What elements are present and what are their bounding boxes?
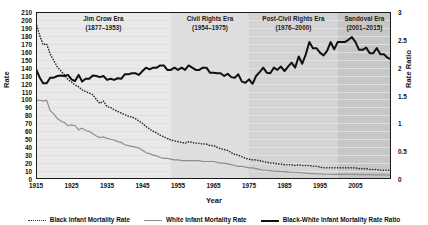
x-axis: 1915192519351945195519651975198519952005 xyxy=(36,180,391,192)
y-tick-left-16: 160 xyxy=(21,48,32,55)
y-tick-left-15: 150 xyxy=(21,56,32,63)
y-tick-left-17: 170 xyxy=(21,40,32,47)
y-tick-left-11: 110 xyxy=(22,88,32,95)
y-tick-right-0: 0 xyxy=(398,176,402,183)
y-tick-right-5: 2.5 xyxy=(398,36,407,43)
y-tick-left-1: 10 xyxy=(25,168,32,175)
y-tick-left-20: 200 xyxy=(21,16,32,23)
legend-label-1: White Infant Mortality Rate xyxy=(166,216,247,223)
x-tick-1: 1925 xyxy=(64,182,78,189)
thick-line-icon xyxy=(261,217,279,223)
y-tick-left-8: 80 xyxy=(25,112,32,119)
y-tick-left-14: 140 xyxy=(21,64,32,71)
y-tick-right-2: 1 xyxy=(398,120,402,127)
x-tick-2: 1935 xyxy=(100,182,114,189)
thin-line-icon xyxy=(144,217,162,223)
y-tick-right-4: 2 xyxy=(398,64,402,71)
legend-label-0: Black Infant Mortality Rate xyxy=(50,216,130,223)
chart-legend: Black Infant Mortality RateWhite Infant … xyxy=(0,216,428,223)
y-axis-right: 00.511.522.53 xyxy=(398,12,420,179)
y-tick-right-6: 3 xyxy=(398,9,402,16)
y-axis-right-title: Rate Ratio xyxy=(404,50,413,88)
y-tick-right-1: 0.5 xyxy=(398,148,407,155)
y-tick-left-4: 40 xyxy=(25,144,32,151)
legend-label-2: Black-White Infant Mortality Rate Ratio xyxy=(283,216,401,223)
series-line-1 xyxy=(36,100,391,175)
series-line-2 xyxy=(36,37,391,84)
y-tick-left-13: 130 xyxy=(21,72,32,79)
x-tick-4: 1955 xyxy=(171,182,185,189)
series-line-0 xyxy=(36,23,391,170)
legend-item-1[interactable]: White Infant Mortality Rate xyxy=(144,216,247,223)
x-tick-7: 1985 xyxy=(277,182,291,189)
y-tick-left-2: 20 xyxy=(25,160,32,167)
infant-mortality-chart: Jim Crow Era(1877–1953)Civil Rights Era(… xyxy=(0,0,428,225)
y-axis-left-title: Rate xyxy=(2,71,11,88)
legend-item-2[interactable]: Black-White Infant Mortality Rate Ratio xyxy=(261,216,401,223)
x-tick-5: 1965 xyxy=(206,182,220,189)
x-tick-0: 1915 xyxy=(29,182,43,189)
x-axis-title: Year xyxy=(0,196,428,205)
y-tick-left-19: 190 xyxy=(21,24,32,31)
x-tick-6: 1975 xyxy=(242,182,256,189)
y-axis-left: 0102030405060708090100110120130140150160… xyxy=(8,12,32,179)
y-tick-left-3: 30 xyxy=(25,152,32,159)
x-tick-8: 1995 xyxy=(313,182,327,189)
y-tick-left-6: 60 xyxy=(25,128,32,135)
x-tick-3: 1945 xyxy=(135,182,149,189)
y-tick-left-18: 180 xyxy=(21,32,32,39)
x-tick-9: 2005 xyxy=(348,182,362,189)
y-tick-right-3: 1.5 xyxy=(398,92,407,99)
y-tick-left-10: 100 xyxy=(21,96,32,103)
y-tick-left-9: 90 xyxy=(25,104,32,111)
y-tick-left-12: 120 xyxy=(21,80,32,87)
legend-item-0[interactable]: Black Infant Mortality Rate xyxy=(28,216,130,223)
y-tick-left-7: 70 xyxy=(25,120,32,127)
y-tick-left-21: 210 xyxy=(21,9,32,16)
dotted-line-icon xyxy=(28,217,46,223)
plot-area: Jim Crow Era(1877–1953)Civil Rights Era(… xyxy=(36,12,391,179)
series-layer xyxy=(36,12,391,179)
y-tick-left-5: 50 xyxy=(25,136,32,143)
